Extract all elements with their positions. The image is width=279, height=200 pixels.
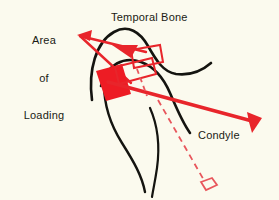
ramus-curve [104,84,145,192]
joint-arrowhead-icon [112,45,138,58]
label-area-of-loading-line3: Loading [10,109,78,122]
label-area-of-loading: Area of Loading [10,9,78,147]
condyle-arrowhead-icon [247,112,262,133]
label-area-of-loading-line1: Area [10,34,78,47]
tmj-loading-diagram: Area of Loading Temporal Bone Condyle [0,0,279,200]
translated-disc-outline [201,178,217,190]
label-condyle: Condyle [198,129,240,142]
label-temporal-bone: Temporal Bone [111,11,188,24]
coronoid-neck-curve [150,108,158,197]
label-area-of-loading-line2: of [10,72,78,85]
red-annotations [77,30,262,190]
bone-outlines [91,29,211,197]
disc-outline-rect-upper [131,45,163,68]
